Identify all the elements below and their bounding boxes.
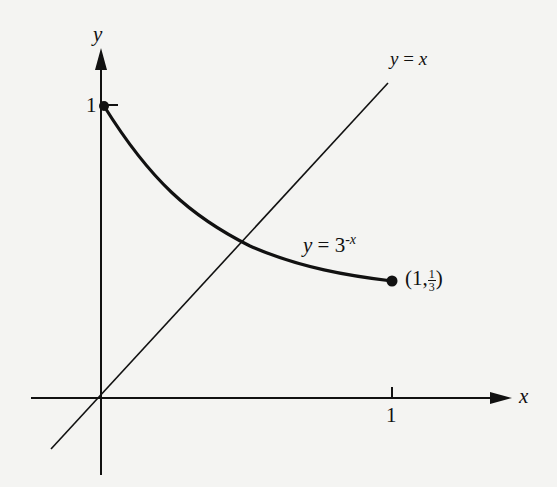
plot-figure: y x 1 1 y = x y = 3-x (1,13)	[0, 0, 557, 487]
curve-exponent: -x	[345, 232, 356, 247]
start-point	[99, 101, 109, 111]
one-third-fraction: 13	[428, 268, 436, 293]
curve-label: y = 3-x	[303, 232, 356, 258]
line-var: x	[419, 48, 427, 69]
point-close: )	[436, 266, 443, 290]
fraction-denominator: 3	[428, 281, 436, 293]
y-axis-arrow-icon	[95, 48, 107, 70]
x-axis-arrow-icon	[490, 392, 512, 404]
end-point	[387, 276, 398, 287]
identity-line-label: y = x	[390, 48, 427, 70]
eq: =	[398, 48, 418, 69]
x-axis-label: x	[519, 384, 528, 409]
y-tick-label: 1	[86, 93, 97, 118]
y-axis-label: y	[93, 22, 102, 47]
fraction-numerator: 1	[428, 268, 436, 281]
x-tick-label: 1	[386, 403, 397, 428]
plot-canvas	[0, 0, 557, 487]
point-open: (1,	[405, 266, 428, 290]
end-point-label: (1,13)	[405, 266, 443, 293]
